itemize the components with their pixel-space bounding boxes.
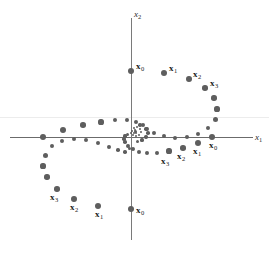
dot-traj1-7	[131, 147, 135, 151]
dot-traj1-x3	[166, 148, 171, 153]
dot-traj3-12	[136, 140, 139, 143]
label-traj4-x2: x2	[70, 203, 78, 212]
dot-traj1-4	[155, 151, 160, 156]
dot-traj2-x3	[202, 85, 208, 91]
dot-inner-k	[135, 132, 137, 134]
dot-traj4-4	[44, 174, 49, 179]
label-traj2-x1: x1	[169, 64, 177, 73]
dot-inner-b	[136, 126, 139, 129]
label-traj1-x1: x1	[193, 147, 201, 156]
label-traj2-x0: x0	[136, 62, 144, 71]
dot-traj2-12	[152, 131, 156, 135]
label-traj4-x0: x0	[136, 206, 144, 215]
phase-portrait-figure: x0x1x2x3x0x1x2x3x0x1x2x3 x1 x2	[0, 0, 269, 262]
dot-traj1-x2	[180, 145, 186, 151]
dot-traj4-13	[116, 148, 120, 152]
dot-traj3-x2	[80, 122, 86, 128]
dot-traj3-11	[140, 138, 143, 141]
dot-traj2-8	[196, 132, 201, 137]
dot-inner-e	[138, 134, 140, 136]
dot-traj3-4	[113, 118, 118, 123]
label-traj2-x3: x3	[210, 79, 218, 88]
dot-traj4-6	[43, 153, 48, 158]
y-axis-label: x2	[134, 10, 141, 19]
dot-traj2-7	[206, 126, 211, 131]
label-traj2-x2: x2	[193, 70, 201, 79]
dot-traj4-8	[60, 139, 65, 144]
dot-traj1-6	[137, 150, 141, 154]
dot-traj2-x1	[161, 70, 167, 76]
dot-inner-c	[139, 128, 142, 131]
dot-inner-g	[132, 134, 134, 136]
dot-traj1-9	[123, 140, 127, 144]
dot-traj1-5	[145, 151, 149, 155]
label-traj1-x2: x2	[177, 152, 185, 161]
dot-traj2-10	[173, 136, 177, 140]
dot-traj2-x2	[186, 76, 192, 82]
label-traj4-x1: x1	[95, 210, 103, 219]
dot-traj1-10	[122, 137, 125, 140]
dot-traj1-12	[126, 133, 129, 136]
dot-traj2-5	[214, 106, 219, 111]
x-axis-label: x1	[255, 133, 262, 142]
dot-traj2-6	[213, 117, 218, 122]
dot-inner-d	[140, 131, 142, 133]
dot-traj2-11	[162, 134, 166, 138]
dot-traj4-11	[96, 141, 100, 145]
dot-traj3-7	[141, 123, 145, 127]
dot-traj4-7	[50, 144, 55, 149]
dot-traj4-9	[72, 137, 76, 141]
scan-artifact-line	[0, 117, 269, 118]
dot-traj2-x0	[128, 68, 134, 74]
dot-traj4-14	[123, 150, 126, 153]
dot-inner-l	[134, 129, 136, 131]
dot-traj3-x3	[98, 119, 103, 124]
dot-traj4-10	[84, 138, 88, 142]
dot-traj3-x1	[60, 127, 66, 133]
label-traj4-x3: x3	[50, 193, 58, 202]
dot-traj2-9	[185, 135, 189, 139]
dot-traj3-x0	[40, 134, 46, 140]
dot-traj4-12	[107, 145, 111, 149]
dot-traj4-5	[40, 163, 45, 168]
dot-traj4-15	[128, 147, 131, 150]
dot-traj2-4	[211, 95, 216, 100]
label-traj1-x3: x3	[161, 157, 169, 166]
label-traj1-x0: x0	[209, 141, 217, 150]
dot-traj4-x3	[54, 186, 60, 192]
dot-traj4-x0	[128, 206, 134, 212]
dot-traj3-5	[125, 118, 129, 122]
dot-traj3-9	[146, 131, 150, 135]
dot-traj3-10	[144, 135, 147, 138]
